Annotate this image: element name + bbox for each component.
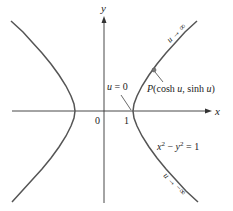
y-axis-label: y	[100, 2, 106, 14]
x-axis-arrow-icon	[205, 109, 212, 114]
vertex-label: u = 0	[107, 81, 128, 92]
x-axis-label: x	[214, 105, 220, 117]
hyperbola-figure: x y 0 1 P(cosh u, sinh u) u = 0 x2 − y2 …	[0, 0, 233, 211]
tick-label-one: 1	[124, 115, 129, 126]
origin-label: 0	[95, 115, 100, 126]
vertex-leader-line	[121, 95, 131, 110]
point-p-leader-line	[155, 72, 163, 82]
lower-limit-label: u → −∞	[162, 170, 189, 197]
equation-label: x2 − y2 = 1	[156, 140, 199, 152]
point-p-label: P(cosh u, sinh u)	[146, 83, 215, 95]
hyperbola-left-branch	[11, 21, 75, 202]
point-p-marker	[152, 68, 156, 72]
y-axis-arrow-icon	[102, 16, 107, 23]
